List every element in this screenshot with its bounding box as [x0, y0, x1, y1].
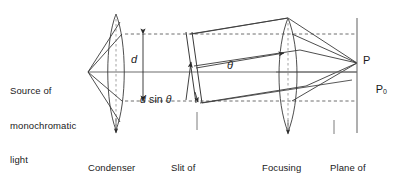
- path-difference-arrow: [186, 62, 191, 100]
- ray-source-to-condenser-top: [88, 34, 122, 72]
- path-difference-label: d sin θ: [128, 82, 172, 117]
- ray-slit-top-to-lens-lower: [190, 18, 288, 34]
- converge-ray-top: [288, 18, 357, 63]
- ray-source-cone-upper: [88, 22, 120, 72]
- plane-caption-line1: Plane of: [330, 162, 372, 174]
- slit-caption: Slit of width d: [171, 139, 202, 182]
- source-label-group: Source of monochromatic light: [10, 62, 76, 182]
- diffraction-diagram: Source of monochromatic light d d sin θ …: [0, 0, 411, 182]
- source-label-line3: light: [10, 154, 76, 166]
- diffracted-ray-middle: [194, 50, 300, 66]
- theta-ray: [196, 53, 284, 68]
- angle-theta-label: θ: [227, 60, 233, 72]
- source-label-line1: Source of: [10, 85, 76, 97]
- point-P0-label: P0: [363, 72, 387, 109]
- condenser-caption: Condenser lens: [88, 139, 135, 182]
- point-P0-base: P: [376, 83, 383, 95]
- converge-ray-upper: [292, 34, 357, 63]
- slit-edge-left: [186, 32, 196, 103]
- source-label-line2: monochromatic: [10, 120, 76, 132]
- converge-ray-middle: [300, 50, 357, 63]
- path-difference-sin: sin: [146, 93, 166, 105]
- point-P0-subscript: 0: [383, 88, 387, 95]
- point-P-label: P: [363, 55, 370, 67]
- plane-caption: Plane of diffraction pattern: [330, 139, 372, 182]
- ray-source-to-condenser-bottom: [88, 72, 122, 101]
- ray-source-cone-lower: [88, 72, 120, 122]
- converge-ray-bottom: [292, 63, 357, 101]
- dimension-d-label: d: [131, 54, 137, 66]
- focusing-caption-line1: Focusing: [262, 162, 301, 174]
- path-difference-theta: θ: [166, 93, 172, 105]
- ray-slit-bottom-to-lens-upper: [202, 80, 352, 103]
- converge-ray-lower: [306, 63, 357, 86]
- slit-caption-line1: Slit of: [171, 162, 202, 174]
- focusing-caption: Focusing lens: [262, 139, 301, 182]
- condenser-caption-line1: Condenser: [88, 162, 135, 174]
